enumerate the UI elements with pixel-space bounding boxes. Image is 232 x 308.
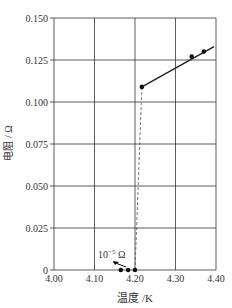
data-point-marker: [133, 268, 138, 273]
transition-dashed-line: [135, 87, 142, 270]
x-tick-label: 4.40: [207, 273, 225, 284]
resistance-temperature-chart: 4.004.104.204.304.40 00.0250.0500.0750.1…: [0, 0, 232, 308]
x-tick-label: 4.20: [126, 273, 144, 284]
y-tick-label: 0.100: [26, 97, 49, 108]
data-point-marker: [119, 268, 124, 273]
y-axis-tick-labels: 00.0250.0500.0750.1000.1250.150: [26, 13, 49, 276]
data-point-marker: [140, 85, 145, 90]
data-point-marker: [126, 268, 131, 273]
x-tick-label: 4.30: [167, 273, 185, 284]
data-points: [119, 49, 207, 272]
x-tick-label: 4.10: [86, 273, 104, 284]
x-axis-label: 温度 /K: [117, 291, 153, 304]
data-point-marker: [202, 49, 207, 54]
data-point-marker: [189, 54, 194, 59]
y-tick-label: 0.150: [26, 13, 49, 24]
data-lines: [135, 47, 214, 270]
annotation-10e-5-ohm: 10−5 Ω: [98, 248, 126, 267]
annotation-label: 10−5 Ω: [98, 248, 125, 260]
y-tick-label: 0: [43, 265, 48, 276]
y-tick-label: 0.050: [26, 181, 49, 192]
y-tick-label: 0.025: [26, 223, 49, 234]
x-axis-tick-labels: 4.004.104.204.304.40: [45, 273, 225, 284]
y-axis-label: 电阻 / Ω: [2, 125, 14, 160]
y-tick-label: 0.075: [26, 139, 49, 150]
y-tick-label: 0.125: [26, 55, 49, 66]
